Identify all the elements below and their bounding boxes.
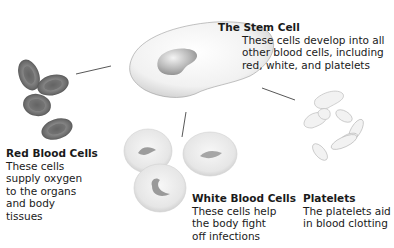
- platelets-title: Platelets: [303, 192, 391, 205]
- stem-cell-desc-line: other blood cells, including: [218, 46, 385, 59]
- white-blood-cells-desc-line: off infections: [192, 230, 296, 243]
- connector-stem-rbc: [76, 66, 111, 74]
- red-blood-cells-title: Red Blood Cells: [6, 147, 106, 160]
- platelets-label: Platelets The platelets aid in blood clo…: [303, 192, 391, 230]
- platelets-icon: [304, 91, 366, 163]
- connector-stem-platelets: [262, 88, 295, 100]
- red-blood-cells-desc-line: to the organs: [6, 185, 106, 198]
- stem-cell-title: The Stem Cell: [218, 21, 385, 34]
- red-blood-cells-label: Red Blood Cells These cells supply oxyge…: [6, 147, 106, 223]
- stem-cell-desc-line: These cells develop into all: [218, 34, 385, 47]
- white-blood-cells-title: White Blood Cells: [192, 192, 296, 205]
- connector-stem-wbc: [182, 112, 186, 137]
- white-blood-cells-label: White Blood Cells These cells help the b…: [192, 192, 296, 242]
- white-blood-cells-desc-line: These cells help: [192, 205, 296, 218]
- red-blood-cells-desc-line: supply oxygen: [6, 172, 106, 185]
- platelets-desc-line: The platelets aid: [303, 205, 391, 218]
- red-blood-cells-icon: [14, 57, 75, 144]
- red-blood-cells-desc-line: and body: [6, 197, 106, 210]
- stem-cell-desc-line: red, white, and platelets: [218, 59, 385, 72]
- stem-cell-label: The Stem Cell These cells develop into a…: [218, 21, 385, 71]
- white-blood-cells-desc-line: the body fight: [192, 217, 296, 230]
- red-blood-cells-desc-line: tissues: [6, 210, 106, 223]
- red-blood-cells-desc-line: These cells: [6, 160, 106, 173]
- platelets-desc-line: in blood clotting: [303, 217, 391, 230]
